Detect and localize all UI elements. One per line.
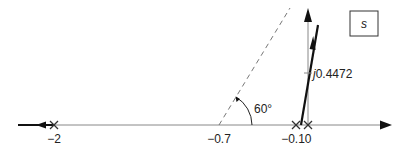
imaginary-axis-arrowhead-icon (304, 8, 312, 22)
label-imag-value: 0.4472 (316, 67, 353, 81)
label-neg07: −0.7 (207, 132, 231, 146)
label-angle: 60° (254, 102, 272, 116)
s-plane-label: s (361, 17, 367, 31)
label-neg2: −2 (47, 132, 61, 146)
label-zero: 0 (305, 132, 312, 146)
label-imag-crossing: j0.4472 (311, 67, 353, 81)
real-axis-arrowhead-icon (380, 121, 392, 130)
angle-arc-arrow-icon (236, 97, 241, 103)
label-neg01: −0.1 (281, 132, 305, 146)
angle-arc (236, 97, 252, 125)
locus-left-arrow-icon (36, 122, 46, 129)
root-locus-diagram: s −2 −0.7 −0.1 0 60° j0.4472 (0, 0, 404, 150)
